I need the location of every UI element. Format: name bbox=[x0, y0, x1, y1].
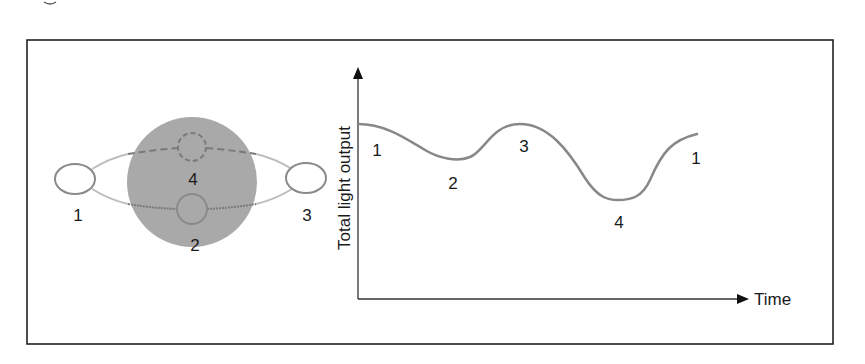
planet-position-3 bbox=[286, 163, 326, 193]
curve-label-3: 3 bbox=[519, 137, 528, 156]
x-axis-label: Time bbox=[754, 290, 791, 309]
eclipsing-binary-figure: 1 2 3 4 Total light output Time 1 2 3 4 … bbox=[0, 0, 865, 364]
orbit-label-2: 2 bbox=[190, 236, 199, 255]
curve-label-2: 2 bbox=[448, 174, 457, 193]
orbit-label-4: 4 bbox=[188, 170, 197, 189]
y-axis-label: Total light output bbox=[335, 126, 354, 250]
planet-position-2-transit bbox=[177, 194, 207, 224]
caption-fragment bbox=[44, 2, 56, 4]
planet-position-1 bbox=[55, 164, 95, 194]
orbit-label-1: 1 bbox=[73, 206, 82, 225]
curve-label-1-end: 1 bbox=[691, 149, 700, 168]
curve-label-1-start: 1 bbox=[372, 141, 381, 160]
orbit-label-3: 3 bbox=[302, 206, 311, 225]
curve-label-4: 4 bbox=[614, 213, 623, 232]
